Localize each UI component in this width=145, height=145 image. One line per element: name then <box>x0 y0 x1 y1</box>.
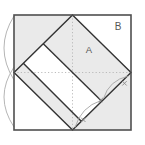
label-region-a: A <box>86 44 93 55</box>
label-region-b: B <box>115 21 122 32</box>
geometry-figure: AB <box>0 0 145 145</box>
geometry-canvas: AB <box>0 0 145 145</box>
construction-arc-left-lower <box>4 67 14 127</box>
construction-arc-left-upper <box>4 16 14 80</box>
